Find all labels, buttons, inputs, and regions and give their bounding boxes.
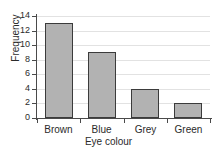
x-axis-tick-mark <box>167 119 168 123</box>
bar-chart: Frequency 02468101214 BrownBlueGreyGreen… <box>0 0 217 150</box>
y-axis-tick-label: 12 <box>0 26 30 35</box>
gridline <box>37 16 210 17</box>
x-axis-tick-mark <box>80 119 81 123</box>
x-axis-category-label: Grey <box>124 124 167 135</box>
x-axis-category-label: Green <box>167 124 210 135</box>
x-axis-tick-mark <box>124 119 125 123</box>
y-axis-tick-label: 10 <box>0 40 30 49</box>
y-axis-tick-label: 2 <box>0 98 30 107</box>
y-axis-tick-label: 0 <box>0 113 30 122</box>
y-axis-tick-label: 8 <box>0 55 30 64</box>
y-axis-tick-label: 6 <box>0 69 30 78</box>
y-axis-tick-label-text: 14 <box>4 11 30 20</box>
x-axis-tick-mark <box>210 119 211 123</box>
y-axis-tick-label-text: 10 <box>4 40 30 49</box>
y-axis-tick-label-text: 0 <box>4 113 30 122</box>
plot-area <box>37 16 210 118</box>
y-axis-tick-label: 4 <box>0 84 30 93</box>
y-axis-tick-label-text: 12 <box>4 26 30 35</box>
bar <box>174 103 202 118</box>
x-axis-tick-mark <box>37 119 38 123</box>
bar <box>131 89 159 118</box>
y-axis-tick-label-text: 8 <box>4 55 30 64</box>
x-axis-title: Eye colour <box>0 136 217 147</box>
y-axis-tick-label-text: 4 <box>4 84 30 93</box>
bar <box>45 23 73 118</box>
x-axis-category-label: Brown <box>37 124 80 135</box>
bar <box>88 52 116 118</box>
x-axis-category-label: Blue <box>80 124 123 135</box>
y-axis-tick-label-text: 2 <box>4 98 30 107</box>
y-axis-tick-label-text: 6 <box>4 69 30 78</box>
y-axis-tick-label: 14 <box>0 11 30 20</box>
